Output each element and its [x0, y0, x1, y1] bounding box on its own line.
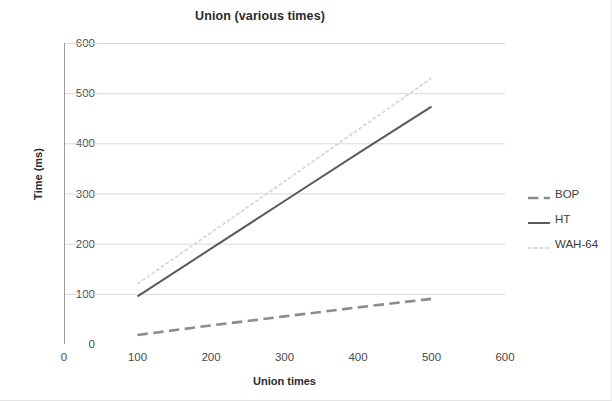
legend-swatch-icon	[528, 189, 550, 199]
x-tick-label: 200	[188, 351, 234, 363]
series-line-ht	[138, 107, 432, 297]
legend-label: WAH-64	[555, 238, 598, 250]
legend-label: HT	[555, 213, 570, 225]
chart-title: Union (various times)	[0, 9, 520, 23]
x-tick-label: 100	[115, 351, 161, 363]
series-line-bop	[138, 299, 432, 335]
legend-item-bop[interactable]: BOP	[528, 181, 610, 206]
plot-svg	[64, 43, 505, 344]
legend-item-wah-64[interactable]: WAH-64	[528, 231, 610, 256]
series-line-wah-64	[138, 78, 432, 284]
chart-legend: BOPHTWAH-64	[528, 181, 610, 256]
x-tick-label: 400	[335, 351, 381, 363]
legend-label: BOP	[555, 188, 579, 200]
plot-area	[64, 43, 505, 344]
x-tick-label: 600	[482, 351, 528, 363]
legend-swatch-icon	[528, 239, 550, 249]
series-lines	[138, 78, 432, 335]
chart-container: Union (various times) Time (ms) Union ti…	[0, 0, 612, 401]
legend-swatch-icon	[528, 214, 550, 224]
gridlines	[64, 44, 505, 345]
legend-item-ht[interactable]: HT	[528, 206, 610, 231]
x-tick-label: 0	[41, 351, 87, 363]
x-axis-title: Union times	[64, 375, 505, 387]
x-tick-label: 300	[262, 351, 308, 363]
y-axis-title: Time (ms)	[32, 114, 44, 234]
x-tick-label: 500	[409, 351, 455, 363]
